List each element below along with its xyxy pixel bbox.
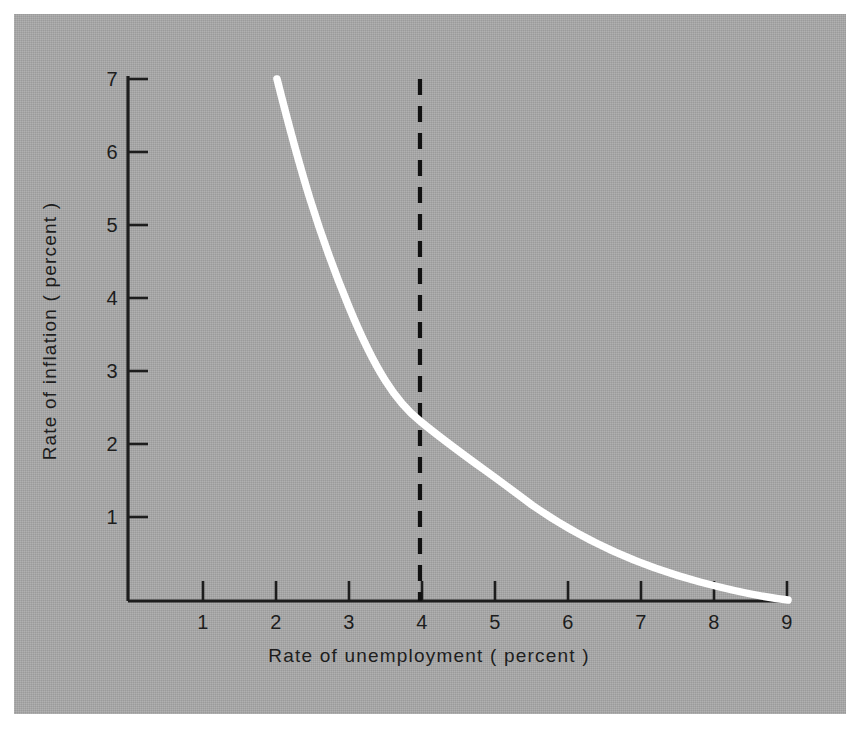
x-tick-label-4: 4 xyxy=(407,612,437,632)
x-tick-label-6: 6 xyxy=(553,612,583,632)
y-tick-label-5: 5 xyxy=(88,215,118,235)
y-tick-label-2: 2 xyxy=(88,434,118,454)
y-tick-label-7: 7 xyxy=(88,69,118,89)
y-tick-label-3: 3 xyxy=(88,361,118,381)
x-tick-label-2: 2 xyxy=(261,612,291,632)
x-axis-title: Rate of unemployment ( percent ) xyxy=(0,645,858,667)
x-tick-label-7: 7 xyxy=(626,612,656,632)
x-tick-label-8: 8 xyxy=(699,612,729,632)
y-tick-label-1: 1 xyxy=(88,507,118,527)
x-tick-label-1: 1 xyxy=(188,612,218,632)
y-axis-title: Rate of inflation ( percent ) xyxy=(39,121,61,541)
x-tick-label-3: 3 xyxy=(334,612,364,632)
x-tick-label-5: 5 xyxy=(480,612,510,632)
y-tick-label-4: 4 xyxy=(88,288,118,308)
chart-panel xyxy=(14,14,846,714)
y-tick-label-6: 6 xyxy=(88,142,118,162)
figure-root: 7 6 5 4 3 2 1 1 2 3 4 5 6 7 8 9 Rate of … xyxy=(0,0,858,739)
x-tick-label-9: 9 xyxy=(772,612,802,632)
